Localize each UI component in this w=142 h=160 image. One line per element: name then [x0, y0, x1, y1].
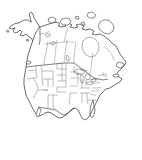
coastline-victoria-island: [60, 18, 71, 25]
coastline-arctic-islet-a: [75, 16, 79, 19]
coastline-kodiak-island: [26, 39, 29, 41]
coastline-banks-island: [48, 17, 56, 23]
coastline-ellesmere-island: [87, 12, 96, 18]
coastline-arctic-islet-b: [81, 22, 85, 25]
coastline-aleutian-islands: [6, 30, 9, 32]
north-america-map: [0, 0, 142, 160]
coastline-baffin-island: [98, 20, 114, 34]
coastline-nova-scotia: [113, 74, 119, 77]
range-map-figure: [0, 0, 142, 160]
